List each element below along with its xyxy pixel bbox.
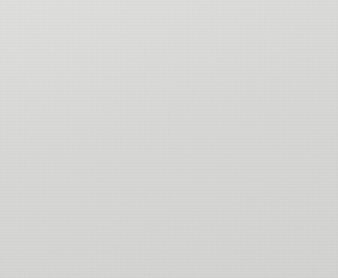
chart-title: Rate of violent victimization per 1,000 …	[6, 4, 332, 46]
x-axis-tick-labels: 1993 1995 1997 1999	[29, 255, 302, 275]
x-label-1997: 1997	[186, 255, 224, 275]
y-tick-50: 50	[22, 113, 41, 133]
y-axis-tick-labels: 70 60 50 40 30 20 10 0	[22, 63, 41, 256]
y-tick-0: 0	[32, 236, 42, 256]
x-label-1993: 1993	[29, 255, 67, 275]
y-tick-70: 70	[22, 63, 41, 83]
chart-title-line1: Rate of violent victimization per	[6, 4, 332, 25]
plot-gridlines	[48, 73, 322, 246]
y-tick-40: 40	[22, 137, 41, 157]
y-tick-10: 10	[22, 211, 41, 231]
y-tick-20: 20	[22, 187, 41, 207]
x-axis-ticks	[49, 245, 321, 252]
series-label-black: Black	[196, 105, 237, 124]
x-label-1999: 1999	[264, 255, 302, 275]
y-tick-60: 60	[22, 88, 41, 108]
y-tick-30: 30	[22, 162, 41, 182]
x-label-1995: 1995	[108, 255, 146, 275]
series-label-other: Other	[91, 152, 133, 171]
chart-title-line2: 1,000 persons age 12 or older	[6, 25, 332, 46]
series-label-white: White	[166, 128, 208, 147]
